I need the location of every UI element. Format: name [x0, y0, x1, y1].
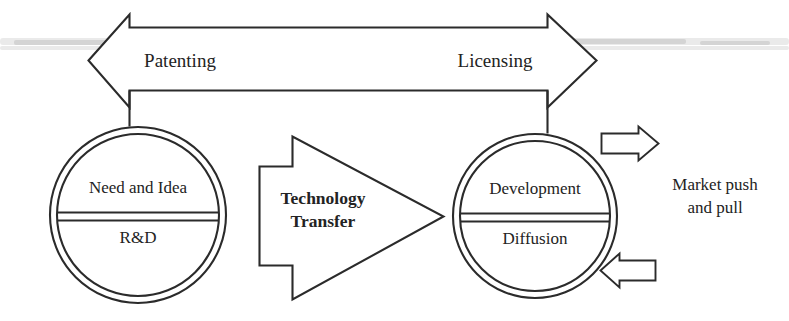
destination-inner-circle: [460, 141, 610, 291]
technology-transfer-diagram: Patenting Licensing Need and Idea R&D Te…: [0, 0, 789, 321]
licensing-label: Licensing: [458, 50, 533, 72]
origin-circle-group: [50, 127, 226, 303]
patenting-label: Patenting: [144, 50, 216, 72]
market-push-arrow-right: [602, 127, 659, 161]
development-label: Development: [489, 179, 581, 199]
market-push-and-pull-line2: and pull: [672, 197, 757, 220]
destination-circle-group: [453, 134, 617, 298]
market-pull-arrow-left: [601, 254, 656, 288]
technology-transfer-line1: Technology: [281, 187, 366, 210]
diagram-canvas: [0, 0, 789, 321]
rd-label: R&D: [120, 228, 157, 248]
market-push-and-pull-label: Market push and pull: [672, 174, 757, 220]
technology-transfer-label: Technology Transfer: [281, 187, 366, 233]
origin-inner-circle: [57, 134, 219, 296]
technology-transfer-line2: Transfer: [281, 210, 366, 233]
need-and-idea-label: Need and Idea: [89, 178, 187, 198]
diffusion-label: Diffusion: [503, 229, 568, 249]
market-push-and-pull-line1: Market push: [672, 174, 757, 197]
